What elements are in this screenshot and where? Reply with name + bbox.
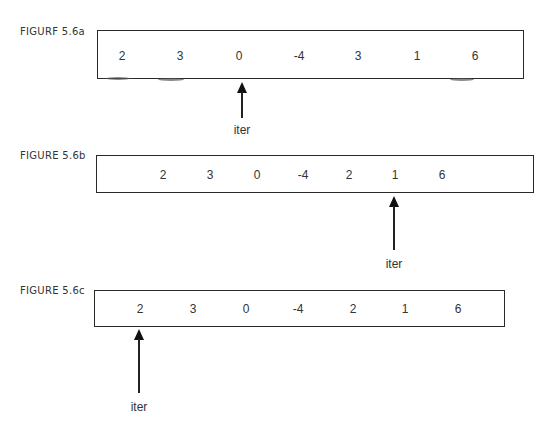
array-cell: 2: [119, 49, 126, 63]
array-cell: -4: [293, 302, 304, 316]
array-cell: -4: [298, 168, 309, 182]
array-cell: 2: [160, 168, 167, 182]
array-cell: 3: [177, 49, 184, 63]
array-cell: 3: [207, 168, 214, 182]
array-cell: 3: [355, 49, 362, 63]
array-cell: 6: [455, 302, 462, 316]
array-cell: 2: [346, 168, 353, 182]
iter-label: iter: [386, 257, 403, 271]
array-cell: 3: [190, 302, 197, 316]
print-smudge: [450, 78, 474, 81]
array-cell: 1: [414, 49, 421, 63]
array-cell: 2: [350, 302, 357, 316]
iter-label: iter: [131, 400, 148, 414]
figure-label: FIGURF 5.6a: [20, 26, 85, 37]
array-cell: -4: [294, 49, 305, 63]
array-cell: 0: [236, 49, 243, 63]
array-cell: 0: [254, 168, 261, 182]
figure-label: FIGURE 5.6b: [20, 150, 86, 161]
figure-label: FIGURE 5.6c: [20, 285, 85, 296]
array-box: [97, 30, 524, 79]
array-cell: 6: [472, 49, 479, 63]
array-cell: 2: [137, 302, 144, 316]
iter-label: iter: [234, 123, 251, 137]
print-smudge: [106, 77, 130, 80]
array-cell: 1: [392, 168, 399, 182]
print-smudge: [158, 78, 184, 81]
array-cell: 6: [439, 168, 446, 182]
array-cell: 0: [243, 302, 250, 316]
array-cell: 1: [402, 302, 409, 316]
